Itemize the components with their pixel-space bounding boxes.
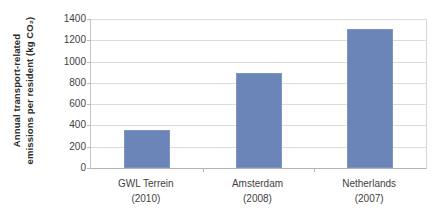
- bar: [347, 29, 393, 168]
- x-axis-tick-mark: [203, 168, 204, 172]
- x-axis-category-label: Netherlands(2007): [313, 176, 425, 206]
- bar-chart: Annual transport-related emissions per r…: [0, 0, 440, 222]
- y-axis-tick-label: 200: [46, 142, 86, 152]
- bar: [124, 130, 170, 168]
- y-axis-tick-label: 1000: [46, 57, 86, 67]
- y-axis-tick-mark: [87, 168, 91, 169]
- y-axis-tick-mark: [87, 147, 91, 148]
- x-axis-category-label: GWL Terrein(2010): [90, 176, 202, 206]
- y-axis-tick-mark: [87, 19, 91, 20]
- y-axis-tick-mark: [87, 125, 91, 126]
- x-axis-category-label: Amsterdam(2008): [202, 176, 314, 206]
- x-axis-tick-labels: GWL Terrein(2010)Amsterdam(2008)Netherla…: [90, 176, 427, 220]
- y-axis-tick-label: 800: [46, 78, 86, 88]
- x-axis-category-year: (2007): [313, 191, 425, 206]
- y-axis-tick-label: 0: [46, 163, 86, 173]
- y-axis-tick-label: 400: [46, 120, 86, 130]
- y-axis-tick-labels: 0200400600800100012001400: [46, 0, 86, 180]
- x-axis-category-name: Amsterdam: [232, 178, 283, 189]
- y-axis-tick-label: 600: [46, 99, 86, 109]
- plot-area: [90, 19, 427, 169]
- y-axis-title-line2: emissions per resident (kg CO₂): [24, 16, 37, 164]
- y-axis-tick-label: 1400: [46, 14, 86, 24]
- x-axis-category-name: Netherlands: [342, 178, 396, 189]
- bar: [236, 73, 282, 168]
- y-axis-title: Annual transport-related emissions per r…: [0, 0, 48, 180]
- y-axis-tick-mark: [87, 40, 91, 41]
- gridline: [91, 19, 426, 20]
- x-axis-tick-mark: [314, 168, 315, 172]
- y-axis-tick-mark: [87, 62, 91, 63]
- y-axis-tick-mark: [87, 104, 91, 105]
- y-axis-tick-label: 1200: [46, 35, 86, 45]
- y-axis-title-line1: Annual transport-related: [12, 33, 23, 146]
- x-axis-category-name: GWL Terrein: [118, 178, 174, 189]
- x-axis-category-year: (2010): [90, 191, 202, 206]
- y-axis-tick-mark: [87, 83, 91, 84]
- x-axis-category-year: (2008): [202, 191, 314, 206]
